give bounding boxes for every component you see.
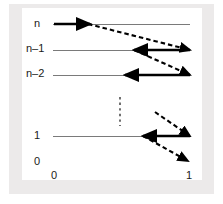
arrow-dashed-into-1 bbox=[155, 112, 190, 136]
arrow-dashed-n1-to-n2 bbox=[134, 50, 190, 75]
y-axis-label-3: 1 bbox=[34, 130, 40, 141]
figure-root: nn–1n–210 01 bbox=[0, 0, 223, 204]
state-lines-group bbox=[53, 25, 190, 137]
transition-arrows-group bbox=[54, 24, 190, 161]
y-axis-label-1: n–1 bbox=[26, 43, 44, 54]
y-axis-label-2: n–2 bbox=[26, 68, 44, 79]
x-axis-label-1: 1 bbox=[186, 170, 192, 181]
y-axis-label-4: 0 bbox=[34, 156, 40, 167]
y-axis-label-0: n bbox=[34, 18, 40, 29]
arrow-dashed-n-to-n1 bbox=[88, 24, 190, 50]
arrow-dashed-1-to-0 bbox=[143, 136, 188, 161]
x-axis-label-0: 0 bbox=[51, 170, 57, 181]
